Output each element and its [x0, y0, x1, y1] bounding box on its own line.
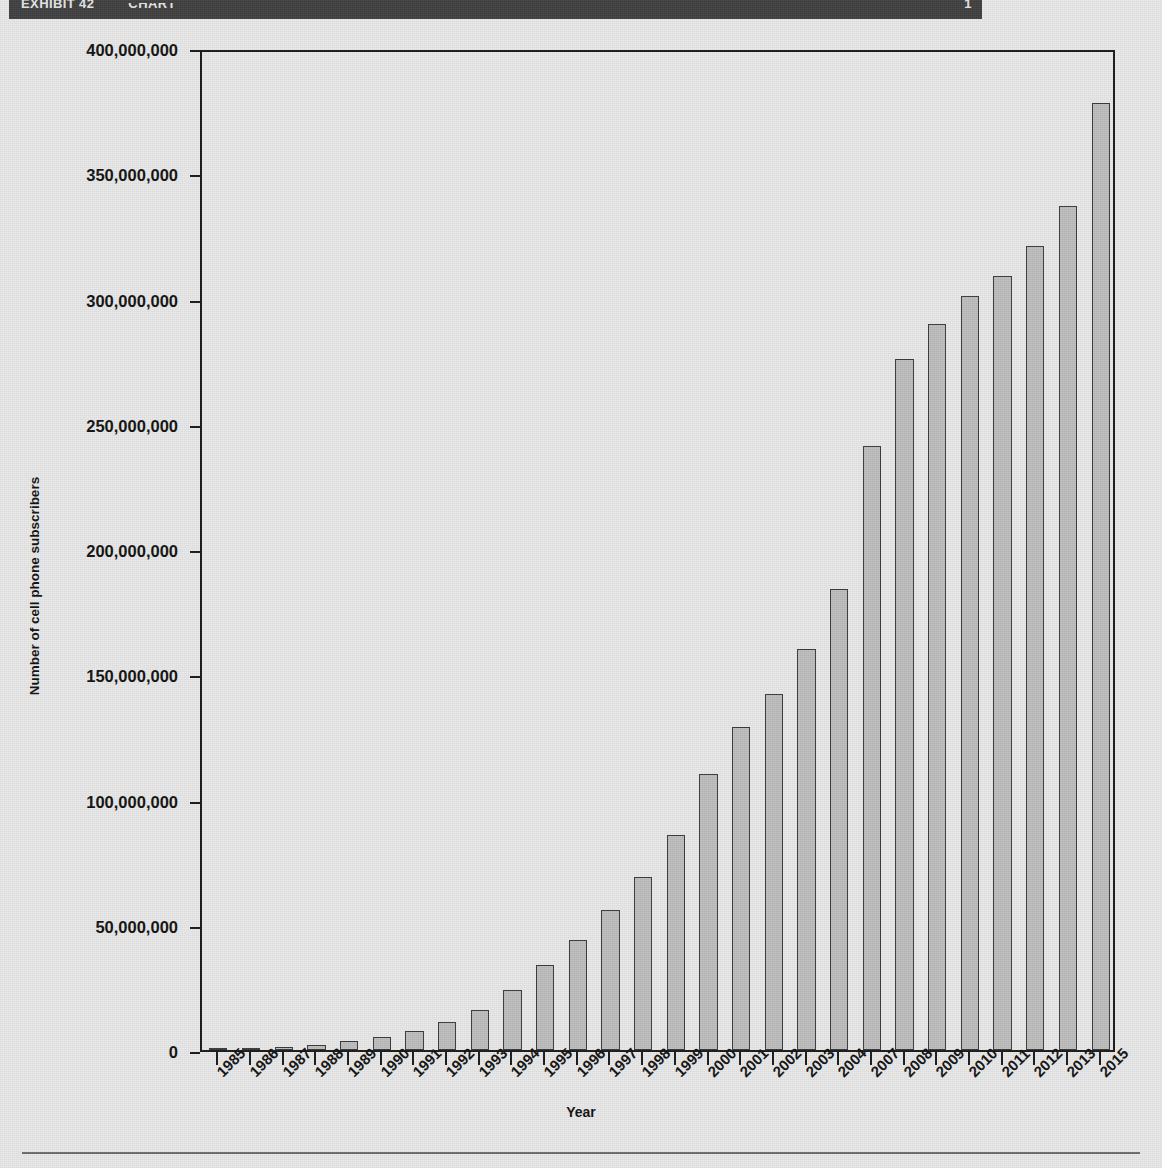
bar-1988: [307, 1045, 325, 1050]
y-axis-tick-label: 350,000,000: [0, 166, 178, 185]
bar-1996: [569, 940, 587, 1050]
x-axis-title: Year: [0, 1104, 1162, 1120]
bar-1992: [438, 1022, 456, 1050]
y-axis-tick-label: 400,000,000: [0, 41, 178, 60]
plot-area: [200, 50, 1115, 1052]
bar-chart-figure: 050,000,000100,000,000150,000,000200,000…: [0, 19, 1162, 1152]
exhibit-banner: EXHIBIT 42 CHART 1: [9, 0, 982, 19]
bar-1994: [503, 990, 521, 1050]
y-axis-tick-mark: [190, 927, 200, 929]
footer-rule: [22, 1152, 1140, 1154]
bar-2010: [961, 296, 979, 1050]
bar-1989: [340, 1041, 358, 1050]
bar-1999: [667, 835, 685, 1050]
bar-1995: [536, 965, 554, 1050]
bar-1998: [634, 877, 652, 1050]
y-axis-tick-mark: [190, 426, 200, 428]
y-axis-tick-mark: [190, 301, 200, 303]
bar-2011: [993, 276, 1011, 1050]
bar-2000: [699, 774, 717, 1050]
bar-2008: [895, 359, 913, 1050]
bar-1990: [373, 1037, 391, 1050]
bar-2009: [928, 324, 946, 1050]
y-axis-tick-mark: [190, 1052, 200, 1054]
bar-1985: [209, 1048, 227, 1050]
y-axis-tick-mark: [190, 551, 200, 553]
exhibit-banner-middle-text: CHART: [128, 3, 964, 18]
bar-2007: [863, 446, 881, 1050]
bar-1993: [471, 1010, 489, 1050]
bar-2013: [1059, 206, 1077, 1050]
y-axis-tick-mark: [190, 802, 200, 804]
y-axis-tick-label: 0: [0, 1043, 178, 1062]
bar-1991: [405, 1031, 423, 1050]
y-axis-tick-label: 300,000,000: [0, 291, 178, 310]
bar-1997: [601, 910, 619, 1050]
bar-2004: [830, 589, 848, 1050]
y-axis-title: Number of cell phone subscribers: [27, 456, 42, 716]
bars-layer: [202, 52, 1113, 1050]
exhibit-banner-left-text: EXHIBIT 42: [21, 3, 94, 18]
y-axis-tick-mark: [190, 175, 200, 177]
y-axis-tick-mark: [190, 50, 200, 52]
y-axis-tick-label: 100,000,000: [0, 792, 178, 811]
bar-2012: [1026, 246, 1044, 1050]
y-axis-tick-label: 50,000,000: [0, 917, 178, 936]
bar-2001: [732, 727, 750, 1050]
bar-2003: [797, 649, 815, 1050]
bar-2002: [765, 694, 783, 1050]
y-axis-tick-label: 250,000,000: [0, 416, 178, 435]
bar-1986: [242, 1048, 260, 1050]
bar-2015: [1092, 103, 1110, 1050]
bar-1987: [275, 1047, 293, 1050]
y-axis-tick-mark: [190, 676, 200, 678]
exhibit-banner-right-text: 1: [964, 3, 972, 18]
